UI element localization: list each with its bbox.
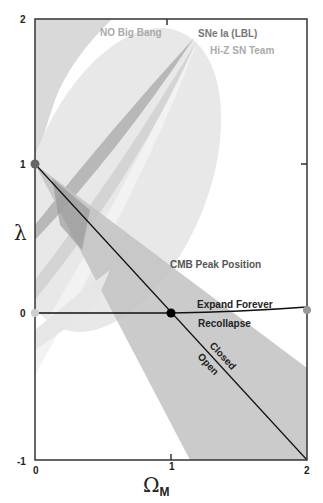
x-axis-title: ΩM [143,473,170,499]
x-tick-label-2: 2 [304,465,310,476]
y-axis-title: λ [14,221,27,245]
label-cmb-peak: CMB Peak Position [170,259,261,270]
label-hiz-sn-team: Hi-Z SN Team [210,45,274,56]
x-tick-label-0: 0 [33,465,39,476]
y-tick-label-2: 2 [20,14,26,25]
point-omega0-lambda0 [31,309,39,317]
x-axis-title-subscript: M [160,485,170,499]
point-omega1-lambda0 [167,309,176,318]
x-tick-label-1: 1 [169,461,175,472]
point-omega2-lambda0 [303,306,311,314]
label-sne-lbl: SNe Ia (LBL) [198,28,257,39]
y-tick-label-1: 1 [20,159,26,170]
label-expand-forever: Expand Forever [197,299,273,310]
y-tick-label-neg1: -1 [17,456,26,467]
label-no-big-bang: NO Big Bang [100,27,162,38]
plot-area [0,0,307,460]
y-tick-label-0: 0 [20,308,26,319]
x-axis-title-omega: Ω [143,473,160,497]
cosmology-omega-lambda-chart: 2 1 0 -1 0 1 2 λ ΩM NO Big Bang SNe Ia (… [0,0,323,503]
point-omega0-lambda1 [31,160,40,169]
label-recollapse: Recollapse [198,318,251,329]
